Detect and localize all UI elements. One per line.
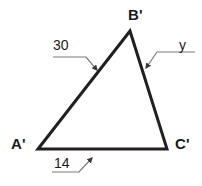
side-length-label-ac: 14 [54, 156, 70, 170]
side-length-label-ab: 30 [53, 38, 69, 52]
geometry-figure: B' A' C' 30 y 14 [0, 0, 202, 186]
vertex-label-c-prime: C' [175, 136, 190, 151]
leader-line-side-ab [53, 57, 97, 70]
leader-line-side-bc [146, 52, 195, 68]
vertex-label-b-prime: B' [128, 7, 143, 22]
side-length-label-bc: y [179, 38, 186, 52]
triangle-svg [0, 0, 202, 186]
vertex-label-a-prime: A' [11, 136, 26, 151]
